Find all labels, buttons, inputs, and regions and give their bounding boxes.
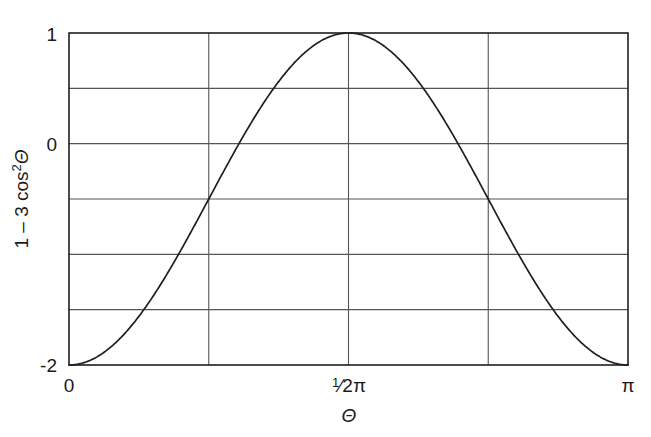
y-axis-title: 1 – 3 cos2Θ [9, 149, 32, 248]
y-axis-title-variable: Θ [11, 149, 32, 164]
half-pi-numerator: 1 [332, 375, 339, 390]
half-pi-denominator: 2π [342, 375, 366, 396]
y-tick-label-1: 1 [46, 24, 57, 45]
x-tick-label-0: 0 [64, 375, 75, 396]
y-axis-title-lead: 1 – 3 cos [11, 171, 32, 248]
chart-figure: 1 0 -2 1 – 3 cos2Θ 0 1⁄2π π Θ [0, 0, 651, 437]
x-tick-label-pi: π [621, 375, 634, 396]
y-tick-label-0: 0 [46, 134, 57, 155]
figure-background [0, 0, 651, 437]
svg-text:1 – 3 cos2Θ: 1 – 3 cos2Θ [9, 149, 32, 248]
y-tick-label-minus2: -2 [40, 355, 57, 376]
x-axis-title: Θ [342, 405, 357, 426]
y-axis-title-superscript: 2 [9, 164, 24, 171]
